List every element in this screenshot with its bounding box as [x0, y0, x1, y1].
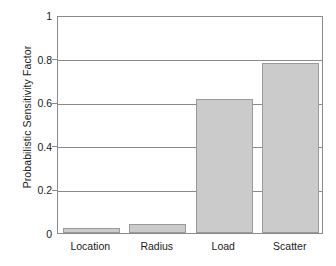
x-tick-label-radius: Radius [124, 238, 191, 254]
x-tick-label-load: Load [190, 238, 257, 254]
bar-chart-figure: Probabilistic Sensitivity Factor 00.20.4… [0, 0, 336, 266]
bar-scatter [262, 63, 319, 233]
y-tick-label: 0.6 [24, 96, 52, 110]
gridline-0-8 [58, 60, 322, 61]
bar-radius [129, 224, 186, 233]
bar-load [196, 99, 253, 233]
plot-area [57, 16, 323, 234]
x-tick-label-scatter: Scatter [257, 238, 324, 254]
y-tick-label: 0 [24, 227, 52, 241]
y-tick-label: 0.2 [24, 183, 52, 197]
y-axis-title: Probabilistic Sensitivity Factor [18, 0, 36, 234]
y-tick-label: 0.4 [24, 140, 52, 154]
bar-location [63, 228, 120, 233]
y-tick-label: 1 [24, 9, 52, 23]
y-tick-label: 0.8 [24, 53, 52, 67]
x-tick-label-location: Location [57, 238, 124, 254]
